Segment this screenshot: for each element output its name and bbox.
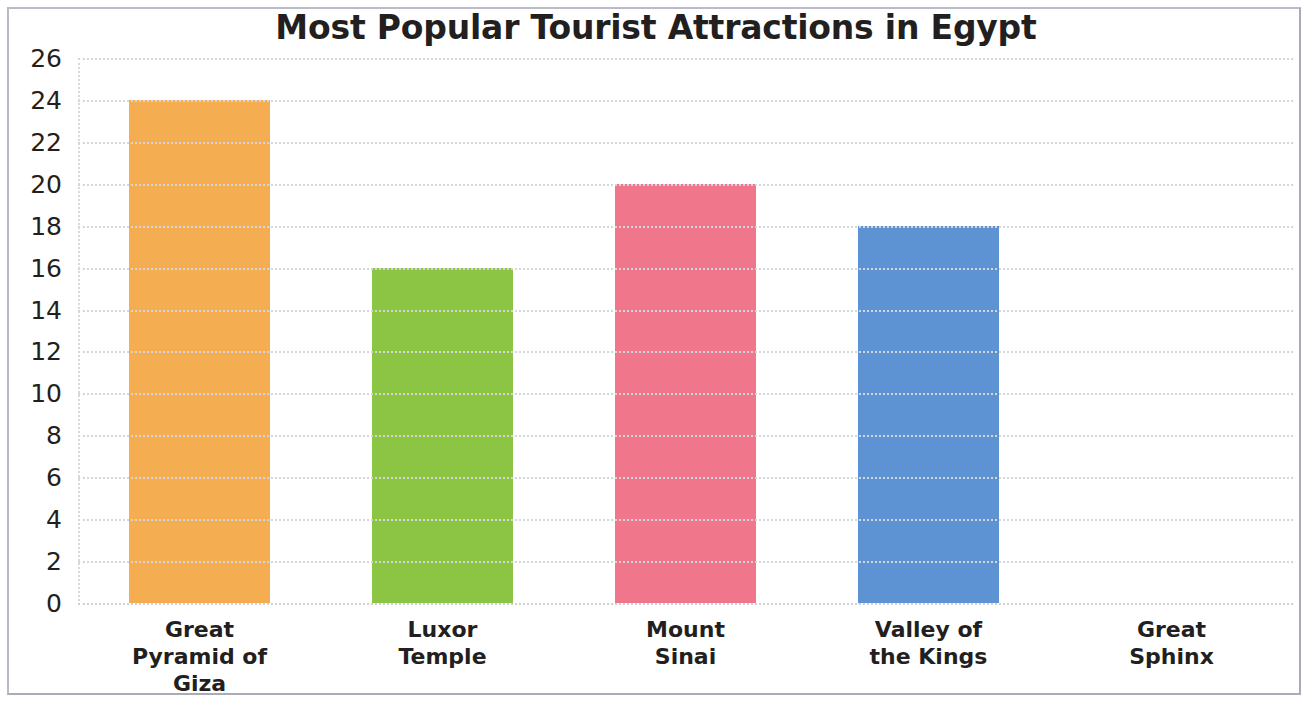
y-axis-tick-label: 14 <box>30 298 62 323</box>
x-axis-tick-label: Mount Sinai <box>564 617 807 671</box>
bar <box>615 184 756 603</box>
x-axis-tick-label: Great Sphinx <box>1050 617 1293 671</box>
y-axis-tick-label: 22 <box>30 130 62 155</box>
bar <box>372 268 513 603</box>
y-axis-tick-label: 8 <box>46 423 62 448</box>
x-axis-tick-label: Great Pyramid of Giza <box>78 617 321 697</box>
chart-container: Most Popular Tourist Attractions in Egyp… <box>0 0 1312 703</box>
bar <box>129 100 270 603</box>
y-axis-tick-label: 26 <box>30 46 62 71</box>
y-axis-tick-label: 0 <box>46 591 62 616</box>
y-axis-tick-label: 6 <box>46 465 62 490</box>
x-axis-tick-label: Luxor Temple <box>321 617 564 671</box>
y-axis-tick-label: 10 <box>30 381 62 406</box>
y-axis-tick-label: 12 <box>30 339 62 364</box>
x-axis-tick-label: Valley of the Kings <box>807 617 1050 671</box>
y-axis-tick-labels: 02468101214161820222426 <box>0 0 62 703</box>
y-axis-tick-label: 18 <box>30 214 62 239</box>
gridline <box>78 58 1293 60</box>
bar <box>858 226 999 603</box>
y-axis-tick-label: 16 <box>30 256 62 281</box>
chart-title: Most Popular Tourist Attractions in Egyp… <box>0 8 1312 47</box>
y-axis-tick-label: 20 <box>30 172 62 197</box>
y-axis-tick-label: 24 <box>30 88 62 113</box>
y-axis-line <box>78 58 80 605</box>
y-axis-tick-label: 4 <box>46 507 62 532</box>
y-axis-tick-label: 2 <box>46 549 62 574</box>
plot-area <box>78 58 1293 603</box>
